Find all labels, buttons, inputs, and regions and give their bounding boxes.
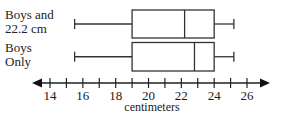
box-plots: Boys and22.2 cmBoysOnly (5, 7, 234, 71)
x-axis-title: centimeters (124, 100, 180, 114)
series-label: Boys and (5, 7, 54, 22)
box-plot-chart: Boys and22.2 cmBoysOnly 14161820222426 c… (0, 0, 283, 120)
axis-tick-label: 14 (44, 88, 58, 103)
axis-tick-label: 26 (241, 88, 255, 103)
series-label: Boys (5, 40, 32, 55)
axis-tick-label: 18 (109, 88, 122, 103)
box-plot-boys-and-22-2-cm: Boys and22.2 cm (5, 7, 234, 38)
iqr-box (132, 43, 214, 72)
axis-right-arrow-icon (260, 79, 270, 88)
axis-left-arrow-icon (32, 79, 42, 88)
series-label: Only (5, 54, 32, 69)
box-plot-boys-only: BoysOnly (5, 40, 234, 71)
axis-tick-label: 16 (76, 88, 90, 103)
iqr-box (132, 10, 214, 38)
series-label: 22.2 cm (5, 21, 47, 36)
axis-tick-label: 24 (208, 88, 222, 103)
